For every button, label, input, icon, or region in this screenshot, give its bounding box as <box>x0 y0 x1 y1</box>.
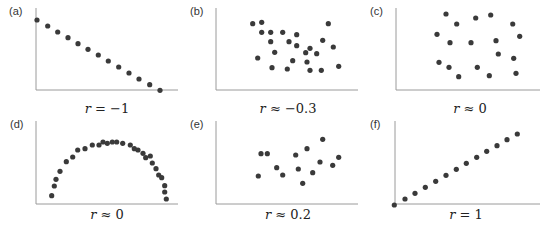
scatter-panel-f: (f) r = 1 <box>360 113 540 226</box>
data-point <box>319 68 324 73</box>
data-point <box>443 11 448 16</box>
data-point <box>307 46 312 51</box>
data-point <box>280 172 285 177</box>
data-points <box>49 139 169 201</box>
data-point <box>510 21 515 26</box>
data-points <box>392 131 520 207</box>
data-point <box>259 30 264 35</box>
data-point <box>336 64 341 69</box>
data-point <box>473 15 478 20</box>
data-point <box>128 142 133 147</box>
data-point <box>55 29 60 34</box>
r-value: ≈ 0.2 <box>275 207 311 222</box>
data-point <box>135 147 140 152</box>
scatter-panel-d: (d) r ≈ 0 <box>0 113 180 226</box>
data-point <box>258 151 263 156</box>
r-value: ≈ 0 <box>101 207 124 222</box>
data-point <box>456 74 461 79</box>
data-points <box>256 137 342 186</box>
correlation-caption: r ≈ 0.2 <box>265 207 311 222</box>
data-point <box>159 175 164 180</box>
data-point <box>474 155 479 160</box>
data-point <box>434 32 439 37</box>
data-point <box>285 66 290 71</box>
data-point <box>143 155 148 160</box>
data-point <box>136 76 141 81</box>
data-point <box>147 82 152 87</box>
data-point <box>150 160 155 165</box>
data-point <box>52 183 57 188</box>
data-point <box>504 137 509 142</box>
r-value: = 1 <box>460 207 483 222</box>
data-point <box>314 51 319 56</box>
data-point <box>484 149 489 154</box>
correlation-caption: r = 1 <box>449 207 483 222</box>
data-point <box>511 56 516 61</box>
data-point <box>268 30 273 35</box>
data-point <box>330 163 335 168</box>
data-point <box>65 35 70 40</box>
scatter-plot <box>180 0 360 113</box>
data-point <box>331 44 336 49</box>
data-point <box>53 177 58 182</box>
data-points <box>250 20 341 73</box>
data-point <box>114 139 119 144</box>
data-points <box>434 11 522 79</box>
data-point <box>162 183 167 188</box>
r-variable: r <box>449 207 455 222</box>
scatter-panel-b: (b) r ≈ −0.3 <box>180 0 360 113</box>
data-point <box>336 155 341 160</box>
data-point <box>326 21 331 26</box>
data-point <box>274 165 279 170</box>
data-point <box>392 202 397 207</box>
data-point <box>307 68 312 73</box>
data-point <box>75 41 80 46</box>
data-point <box>164 196 169 201</box>
data-point <box>269 65 274 70</box>
data-point <box>513 71 518 76</box>
panel-label: (e) <box>190 118 203 130</box>
data-point <box>475 65 480 70</box>
correlation-caption: r ≈ 0 <box>90 207 124 222</box>
data-point <box>268 39 273 44</box>
data-point <box>454 167 459 172</box>
panel-label: (a) <box>9 5 22 17</box>
data-point <box>70 154 75 159</box>
scatter-panel-c: (c) r ≈ 0 <box>360 0 540 113</box>
data-point <box>494 143 499 148</box>
data-point <box>157 88 162 93</box>
data-point <box>265 151 270 156</box>
data-point <box>116 64 121 69</box>
data-point <box>443 173 448 178</box>
data-point <box>303 50 308 55</box>
data-point <box>294 32 299 37</box>
data-point <box>34 17 39 22</box>
data-point <box>293 152 298 157</box>
data-point <box>515 131 520 136</box>
scatter-panel-e: (e) r ≈ 0.2 <box>180 113 360 226</box>
data-point <box>423 185 428 190</box>
data-point <box>259 20 264 25</box>
scatter-plot <box>360 0 540 113</box>
data-point <box>148 153 153 158</box>
data-point <box>320 38 325 43</box>
data-point <box>106 58 111 63</box>
panel-label: (f) <box>370 118 380 130</box>
data-point <box>496 51 501 56</box>
data-point <box>82 146 87 151</box>
data-point <box>85 47 90 52</box>
data-point <box>294 43 299 48</box>
data-point <box>488 12 493 17</box>
data-point <box>120 141 125 146</box>
data-point <box>517 34 522 39</box>
data-point <box>402 196 407 201</box>
data-point <box>286 39 291 44</box>
data-point <box>255 55 260 60</box>
data-point <box>256 173 261 178</box>
data-point <box>57 169 62 174</box>
data-point <box>447 40 452 45</box>
data-point <box>140 151 145 156</box>
data-points <box>34 17 162 93</box>
data-point <box>250 21 255 26</box>
data-point <box>454 21 459 26</box>
